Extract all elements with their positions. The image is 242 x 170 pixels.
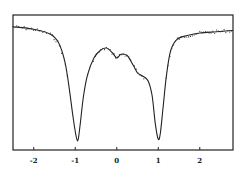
data-point: [16, 25, 17, 26]
data-point: [225, 32, 226, 33]
data-point: [46, 33, 47, 34]
data-point: [27, 28, 28, 29]
x-tick-label: 1: [156, 156, 161, 165]
data-point: [145, 78, 146, 79]
data-point: [196, 34, 197, 35]
data-point: [117, 57, 118, 58]
data-point: [115, 58, 116, 59]
x-tick-label: 0: [114, 156, 119, 165]
data-point: [136, 69, 137, 70]
data-point: [57, 40, 58, 41]
data-point: [125, 55, 126, 56]
data-point: [179, 39, 180, 40]
data-point: [169, 56, 170, 57]
data-point: [184, 37, 185, 38]
data-point: [171, 48, 172, 49]
data-point: [29, 28, 30, 29]
data-point: [102, 48, 103, 49]
data-point: [182, 36, 183, 37]
data-point: [128, 56, 129, 57]
data-point: [207, 31, 208, 32]
data-point: [12, 26, 13, 27]
data-point: [20, 27, 21, 28]
data-point: [91, 63, 92, 64]
data-point: [24, 26, 25, 27]
data-point: [192, 35, 193, 36]
data-point: [201, 32, 202, 33]
data-point: [197, 33, 198, 34]
fit-curve: [13, 27, 233, 141]
data-point: [212, 31, 213, 32]
data-point: [39, 30, 40, 31]
data-point: [54, 39, 55, 40]
plot-frame: [13, 15, 233, 150]
data-point: [121, 54, 122, 55]
data-point: [98, 52, 99, 53]
data-point: [106, 47, 107, 48]
data-point: [194, 34, 195, 35]
data-point: [95, 56, 96, 57]
data-point: [210, 32, 211, 33]
data-point: [111, 53, 112, 54]
data-point: [205, 31, 206, 32]
data-point: [166, 78, 167, 79]
data-point: [61, 53, 62, 54]
data-point: [93, 61, 94, 62]
data-point: [138, 73, 139, 74]
data-point: [167, 65, 168, 66]
data-point: [227, 30, 228, 31]
x-tick-label: -2: [30, 156, 38, 165]
data-point: [63, 56, 64, 57]
data-point: [134, 65, 135, 66]
data-point: [104, 49, 105, 50]
data-point: [209, 32, 210, 33]
data-point: [97, 53, 98, 54]
data-point: [173, 44, 174, 45]
x-tick-label: -1: [71, 156, 79, 165]
data-point: [186, 36, 187, 37]
data-point: [18, 26, 19, 27]
data-point: [231, 30, 232, 31]
data-point: [89, 68, 90, 69]
data-point: [35, 30, 36, 31]
data-point: [141, 76, 142, 77]
data-point: [126, 55, 127, 56]
data-point: [37, 28, 38, 29]
data-point: [50, 33, 51, 34]
data-point: [181, 36, 182, 37]
data-point: [44, 31, 45, 32]
data-point: [65, 63, 66, 64]
data-point: [87, 74, 88, 75]
data-point: [175, 40, 176, 41]
data-point: [22, 27, 23, 28]
data-point: [48, 33, 49, 34]
data-point: [110, 49, 111, 50]
data-point: [113, 53, 114, 54]
data-point: [67, 75, 68, 76]
data-point: [222, 31, 223, 32]
data-point: [132, 63, 133, 64]
data-point: [214, 33, 215, 34]
x-axis-tick-labels: -2-1012: [30, 156, 202, 165]
data-point: [229, 31, 230, 32]
data-point: [55, 41, 56, 42]
data-point: [224, 29, 225, 30]
data-point: [119, 54, 120, 55]
mossbauer-spectrum-chart: -2-1012: [0, 0, 242, 170]
data-point: [123, 54, 124, 55]
data-point: [203, 32, 204, 33]
data-point: [218, 31, 219, 32]
data-point: [33, 30, 34, 31]
data-point: [26, 29, 27, 30]
data-point: [59, 45, 60, 46]
data-point: [147, 79, 148, 80]
data-point: [177, 38, 178, 39]
data-point: [40, 30, 41, 31]
data-point: [199, 31, 200, 32]
data-point: [100, 49, 101, 50]
data-point: [14, 27, 15, 28]
data-point: [42, 32, 43, 33]
data-point: [188, 36, 189, 37]
data-point: [139, 75, 140, 76]
data-point: [143, 78, 144, 79]
